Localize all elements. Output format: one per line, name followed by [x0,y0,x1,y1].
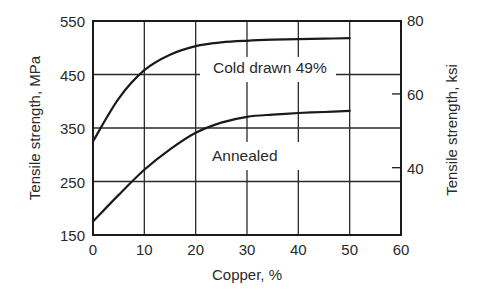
x-axis-tick-label: 60 [393,241,410,258]
left-axis-tick-label: 250 [60,174,85,191]
x-axis-tick-label: 0 [89,241,97,258]
right-axis-tick-label: 80 [407,12,424,29]
annealed-curve-label: Annealed [212,147,278,164]
x-axis-tick-label: 40 [290,241,307,258]
x-axis-title: Copper, % [212,266,282,283]
left-axis-tick-label: 450 [60,67,85,84]
left-axis-title: Tensile strength, MPa [26,55,43,200]
grid-lines [93,21,401,235]
x-axis-tick-label: 10 [136,241,153,258]
left-axis-tick-label: 350 [60,120,85,137]
right-axis-tick-label: 60 [407,86,424,103]
right-axis-tick-label: 40 [407,160,424,177]
cold-drawn-curve-label: Cold drawn 49% [213,59,327,76]
cold-drawn-curve [93,38,350,141]
x-axis-tick-label: 50 [341,241,358,258]
tensile-strength-chart: 0102030405060 150250350450550 406080 Cop… [0,0,478,302]
left-axis-tick-label: 550 [60,13,85,30]
left-axis-tick-labels: 150250350450550 [60,13,85,244]
right-axis-tick-labels: 406080 [407,12,424,177]
x-axis-tick-labels: 0102030405060 [89,241,410,258]
right-axis-title: Tensile strength, ksi [443,64,460,196]
x-axis-tick-label: 20 [187,241,204,258]
x-axis-tick-label: 30 [239,241,256,258]
right-axis-ticks [392,94,401,168]
left-axis-tick-label: 150 [60,227,85,244]
